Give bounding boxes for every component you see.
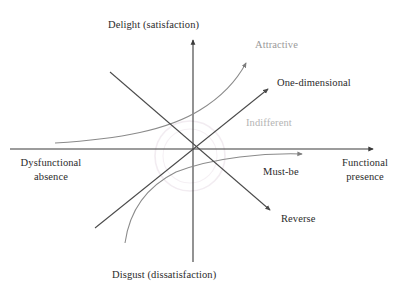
curve-label-indifferent: Indifferent [246,116,292,129]
x-axis-left-label-line2: absence [34,171,68,182]
curve-attractive [55,63,246,143]
kano-model-figure: Delight (satisfaction) Disgust (dissatis… [0,0,403,296]
curve-one-dimensional [95,89,268,228]
x-axis-right-label-line1: Functional [342,157,388,168]
x-axis-right-label-line2: presence [346,171,384,182]
x-axis-right-label: Functional presence [330,156,400,183]
curve-label-must-be: Must-be [263,165,299,178]
curve-label-one-dimensional: One-dimensional [277,76,351,89]
kano-model-canvas [0,0,403,296]
y-axis-top-label: Delight (satisfaction) [108,18,199,31]
curve-label-attractive: Attractive [255,38,298,51]
x-axis-left-label-line1: Dysfunctional [21,157,82,168]
x-axis-left-label: Dysfunctional absence [8,156,94,183]
y-axis-bottom-label: Disgust (dissatisfaction) [112,268,216,281]
curve-reverse [110,72,270,210]
curve-label-reverse: Reverse [281,212,316,225]
